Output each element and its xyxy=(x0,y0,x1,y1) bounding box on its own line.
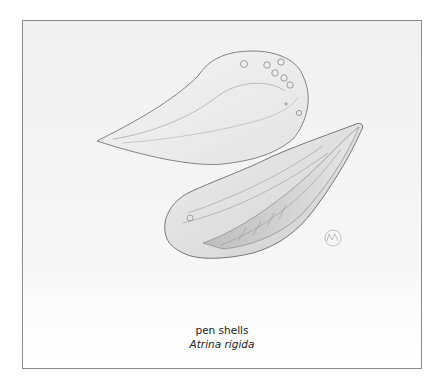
figure-caption: pen shells Atrina rigida xyxy=(23,323,421,351)
upper-shell xyxy=(97,51,308,164)
common-name: pen shells xyxy=(23,323,421,337)
artist-monogram-icon xyxy=(325,230,341,246)
illustration-plate: pen shells Atrina rigida xyxy=(22,20,422,369)
scientific-name: Atrina rigida xyxy=(23,337,421,351)
pen-shells-illustration xyxy=(23,21,421,311)
